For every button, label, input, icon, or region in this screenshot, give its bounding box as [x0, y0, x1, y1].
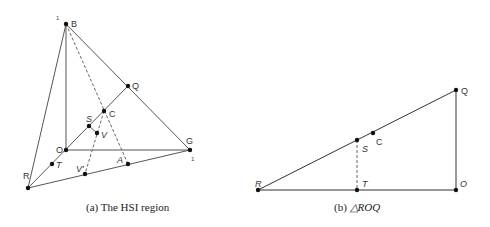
diagram-canvas: 1 B Q C S V O G 1 T V' A R R T O Q S C [0, 0, 490, 227]
label-q: Q [461, 86, 468, 96]
caption-b-prefix: (b) [334, 201, 350, 213]
point-q [454, 88, 458, 92]
label-t: T [56, 160, 63, 170]
tick-b-one: 1 [56, 15, 60, 21]
point-t [355, 188, 359, 192]
label-o: O [56, 145, 63, 155]
figure-a-hsi-region: 1 B Q C S V O G 1 T V' A R [23, 15, 195, 190]
figure-b-triangle-roq: R T O Q S C [255, 86, 468, 192]
point-r [26, 186, 30, 190]
point-q [126, 84, 130, 88]
point-s [87, 124, 91, 128]
label-s: S [362, 144, 368, 154]
caption-b: (b) △ROQ [334, 201, 380, 214]
label-g: G [186, 136, 193, 146]
label-v: V [101, 130, 108, 140]
tick-g-one: 1 [191, 156, 195, 162]
point-o [454, 188, 458, 192]
label-r: R [255, 179, 262, 189]
point-a [126, 162, 130, 166]
point-c [102, 109, 106, 113]
point-b [64, 22, 68, 26]
dashed-b-a [66, 24, 128, 164]
point-t [50, 162, 54, 166]
label-r: R [23, 171, 30, 181]
caption-b-math: △ROQ [350, 201, 381, 213]
label-q: Q [132, 81, 139, 91]
label-a: A [116, 155, 123, 165]
caption-a-text: (a) The HSI region [86, 201, 169, 213]
label-t: T [362, 179, 369, 189]
point-o [64, 148, 68, 152]
point-s [355, 138, 359, 142]
edge-r-g [28, 150, 190, 188]
label-vprime: V' [76, 164, 84, 174]
label-o: O [460, 179, 467, 189]
label-c: C [109, 109, 116, 119]
label-c: C [376, 137, 383, 147]
label-s: S [86, 114, 92, 124]
point-g [188, 148, 192, 152]
point-c [371, 131, 375, 135]
label-b: B [71, 19, 77, 29]
point-v [95, 131, 99, 135]
caption-a: (a) The HSI region [86, 201, 169, 213]
